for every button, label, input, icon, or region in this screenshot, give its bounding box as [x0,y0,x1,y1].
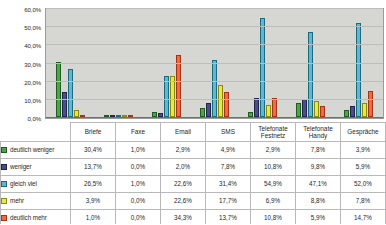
bar[interactable] [206,103,211,117]
gridline [46,44,383,45]
y-tick-label: 60,0% [24,6,41,13]
bar[interactable] [272,98,277,117]
y-tick-label: 50,0% [24,24,41,31]
y-tick-label: 20,0% [24,78,41,85]
table-cell: 47,1% [296,176,341,193]
table-column-header: Faxe [116,123,161,142]
table-cell: 5,9% [296,210,341,225]
y-tick-label: 40,0% [24,42,41,49]
bar[interactable] [302,99,307,117]
table-column-header: Telefonate Handy [296,123,341,142]
table-cell: 54,9% [251,176,296,193]
legend-entry[interactable]: weniger [1,159,71,176]
legend-label: mehr [10,197,24,204]
bar[interactable] [164,76,169,117]
bar[interactable] [170,76,175,117]
table-cell: 13,7% [206,210,251,225]
bar[interactable] [254,98,259,117]
bar-chart: 60,0%50,0%40,0%30,0%20,0%10,0%0,0% [0,0,386,124]
table-corner-cell [1,123,71,142]
gridline [46,8,383,9]
table-cell: 0,0% [116,210,161,225]
gridline [46,63,383,64]
table-cell: 9,8% [296,159,341,176]
bar[interactable] [224,92,229,117]
table-cell: 14,7% [341,210,386,225]
table-row: gleich viel26,5%1,0%22,6%31,4%54,9%47,1%… [1,176,386,193]
table-cell: 13,7% [71,159,116,176]
bar[interactable] [356,23,361,117]
table-cell: 7,8% [341,193,386,210]
data-table: BriefeFaxeEmailSMSTelefonate FestnetzTel… [0,122,386,224]
table-cell: 7,8% [206,159,251,176]
bar[interactable] [350,106,355,117]
table-cell: 52,0% [341,176,386,193]
table-cell: 7,8% [296,142,341,159]
legend-label: gleich viel [10,180,37,187]
bar[interactable] [62,92,67,117]
table-cell: 22,6% [161,193,206,210]
table-cell: 3,9% [71,193,116,210]
legend-entry[interactable]: deutlich mehr [1,210,71,225]
gridline [46,99,383,100]
legend-entry[interactable]: deutlich weniger [1,142,71,159]
table-cell: 17,7% [206,193,251,210]
bar[interactable] [68,69,73,117]
table-body: deutlich weniger30,4%1,0%2,9%4,9%2,9%7,8… [1,142,386,225]
gridline [46,81,383,82]
bar[interactable] [320,106,325,117]
table-row: weniger13,7%0,0%2,0%7,8%10,8%9,8%5,9% [1,159,386,176]
table-cell: 0,0% [116,193,161,210]
bar[interactable] [260,18,265,117]
legend-label: deutlich mehr [10,214,47,221]
y-tick-label: 30,0% [24,60,41,67]
chart-page: 60,0%50,0%40,0%30,0%20,0%10,0%0,0% Brief… [0,0,386,224]
table-column-header: Briefe [71,123,116,142]
x-axis-line [46,117,383,118]
table-header-row: BriefeFaxeEmailSMSTelefonate FestnetzTel… [1,123,386,142]
bar[interactable] [368,91,373,117]
table-row: deutlich mehr1,0%0,0%34,3%13,7%10,8%5,9%… [1,210,386,225]
table-cell: 26,5% [71,176,116,193]
table-cell: 22,6% [161,176,206,193]
table-cell: 5,9% [341,159,386,176]
legend-label: deutlich weniger [10,146,54,153]
data-table-wrapper: BriefeFaxeEmailSMSTelefonate FestnetzTel… [0,122,386,224]
y-tick-label: 10,0% [24,96,41,103]
table-cell: 6,9% [251,193,296,210]
bar[interactable] [74,110,79,117]
y-tick-label: 0,0% [28,115,42,122]
table-cell: 1,0% [116,142,161,159]
table-cell: 2,0% [161,159,206,176]
legend-entry[interactable]: gleich viel [1,176,71,193]
table-column-header: Gespräche [341,123,386,142]
table-cell: 1,0% [116,176,161,193]
table-cell: 0,0% [116,159,161,176]
bar[interactable] [218,85,223,117]
bar[interactable] [212,60,217,117]
table-cell: 4,9% [206,142,251,159]
bar[interactable] [314,101,319,117]
y-axis-tick-labels: 60,0%50,0%40,0%30,0%20,0%10,0%0,0% [0,0,44,124]
table-cell: 34,3% [161,210,206,225]
legend-label: weniger [10,163,32,170]
table-cell: 2,9% [161,142,206,159]
table-cell: 30,4% [71,142,116,159]
gridline [46,26,383,27]
bar[interactable] [176,55,181,117]
table-row: deutlich weniger30,4%1,0%2,9%4,9%2,9%7,8… [1,142,386,159]
bar[interactable] [200,108,205,117]
plot-area [45,8,384,119]
bar[interactable] [296,103,301,117]
legend-swatch-icon [1,215,7,221]
table-cell: 8,8% [296,193,341,210]
legend-swatch-icon [1,164,7,170]
table-cell: 2,9% [251,142,296,159]
legend-swatch-icon [1,181,7,187]
bar[interactable] [56,62,61,117]
bar[interactable] [344,110,349,117]
legend-entry[interactable]: mehr [1,193,71,210]
bar[interactable] [362,103,367,117]
bar[interactable] [266,105,271,117]
legend-swatch-icon [1,147,7,153]
